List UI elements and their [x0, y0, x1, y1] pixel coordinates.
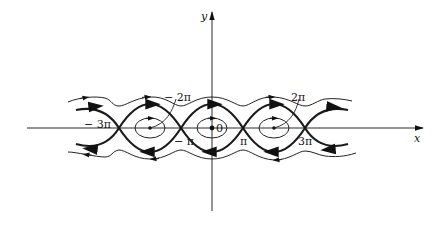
phase-portrait-diagram: y x − 3π − 2π − π 0 π 2π 3π [0, 0, 446, 226]
arrow-left-icon [86, 155, 92, 156]
separatrix-right-upper [305, 109, 348, 128]
label-3pi: 3π [298, 135, 312, 148]
label-neg-pi: − π [174, 135, 194, 148]
y-axis-label: y [200, 10, 208, 23]
label-zero: 0 [216, 122, 223, 135]
arrow-right-icon [328, 107, 334, 108]
separatrix-bottom-point [210, 150, 214, 154]
center-point-0 [210, 126, 215, 131]
label-pi: π [240, 135, 247, 148]
separatrix-top-point [210, 102, 214, 106]
label-neg-2pi: − 2π [164, 91, 191, 104]
arrow-right-icon [80, 98, 86, 99]
arrow-left-icon [90, 149, 96, 150]
arrow-right-icon [90, 107, 96, 108]
label-2pi: 2π [291, 91, 305, 104]
arrow-left-icon [328, 149, 334, 150]
arrow-left-icon [276, 160, 282, 161]
label-neg-3pi: − 3π [84, 118, 111, 131]
x-axis-label: x [414, 132, 421, 145]
axes [27, 12, 423, 211]
